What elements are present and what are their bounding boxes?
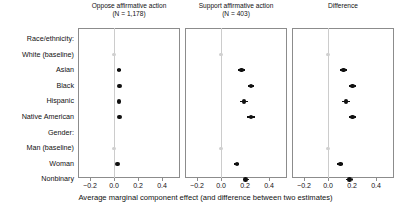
x-tick-label: 0.2 [126,182,150,190]
point-estimate-marker [350,84,355,89]
x-tick [138,178,139,181]
point-estimate-marker [219,53,222,56]
panel-1: Oppose affirmative action (N = 1,178)−0.… [78,28,180,178]
x-tick-label: 0.2 [233,182,257,190]
row-label-asian: Asian [56,66,74,74]
point-estimate-marker [115,162,120,167]
x-tick-label: 0.4 [257,182,281,190]
panel-plot-area [292,28,394,178]
x-tick [114,178,115,181]
zero-reference-line [221,28,222,178]
point-estimate-marker [117,84,122,89]
x-tick [197,178,198,181]
point-estimate-marker [338,162,343,167]
x-tick [328,178,329,181]
zero-reference-line [114,28,115,178]
row-label-man-baseline: Man (baseline) [26,144,74,152]
point-estimate-marker [112,147,115,150]
x-tick [304,178,305,181]
point-estimate-marker [344,99,349,104]
point-estimate-marker [219,147,222,150]
x-tick-label: 0.4 [364,182,388,190]
point-estimate-marker [235,162,240,167]
figure-canvas: Race/ethnicity:White (baseline)AsianBlac… [0,0,411,212]
row-label-race-ethnicity: Race/ethnicity: [27,35,74,43]
x-tick [162,178,163,181]
x-axis-caption: Average marginal component effect (and d… [0,193,411,202]
panel-title: Oppose affirmative action (N = 1,178) [78,2,180,19]
point-estimate-marker [242,99,247,104]
panel-2: Support affirmative action (N = 403)−0.2… [185,28,287,178]
zero-reference-line [328,28,329,178]
panel-plot-area [78,28,180,178]
x-tick-label: 0.2 [340,182,364,190]
x-tick-label: 0.0 [209,182,233,190]
row-label-gender: Gender: [48,129,74,137]
row-label-woman: Woman [49,160,74,168]
x-tick-label: −0.2 [78,182,102,190]
x-tick [221,178,222,181]
x-tick-label: −0.2 [185,182,209,190]
x-tick-label: 0.0 [316,182,340,190]
point-estimate-marker [326,53,329,56]
x-tick [90,178,91,181]
panel-3: Difference−0.20.00.20.4 [292,28,394,178]
row-label-black: Black [56,82,74,90]
row-label-hispanic: Hispanic [46,97,74,105]
row-label-column: Race/ethnicity:White (baseline)AsianBlac… [0,0,76,212]
row-label-native-american: Native American [22,113,74,121]
point-estimate-marker [112,53,115,56]
panel-title: Support affirmative action (N = 403) [185,2,287,19]
point-estimate-marker [326,147,329,150]
x-tick-label: 0.0 [102,182,126,190]
point-estimate-marker [117,99,122,104]
x-tick-label: 0.4 [150,182,174,190]
panel-title: Difference [292,2,394,10]
x-tick [376,178,377,181]
row-label-white-baseline: White (baseline) [22,51,74,59]
row-label-nonbinary: Nonbinary [41,175,74,183]
point-estimate-marker [350,115,355,120]
x-tick-label: −0.2 [292,182,316,190]
point-estimate-marker [347,177,352,182]
panel-plot-area [185,28,287,178]
point-estimate-marker [243,177,248,182]
x-tick [269,178,270,181]
